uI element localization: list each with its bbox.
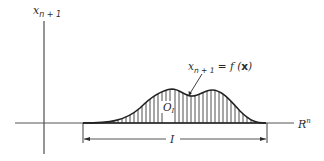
interval-label: I — [169, 133, 175, 146]
arrow-right-icon — [260, 137, 266, 141]
curve-label: xn + 1 = f (x) — [188, 60, 252, 75]
arrow-left-icon — [84, 137, 90, 141]
y-axis-label: xn + 1 — [33, 4, 61, 19]
hatched-region — [90, 80, 259, 124]
label-pointer — [189, 74, 202, 95]
map-diagram: xn + 1 Rn xn + 1 = f (x) OI I — [0, 0, 324, 161]
x-axis-label: Rn — [297, 117, 311, 131]
